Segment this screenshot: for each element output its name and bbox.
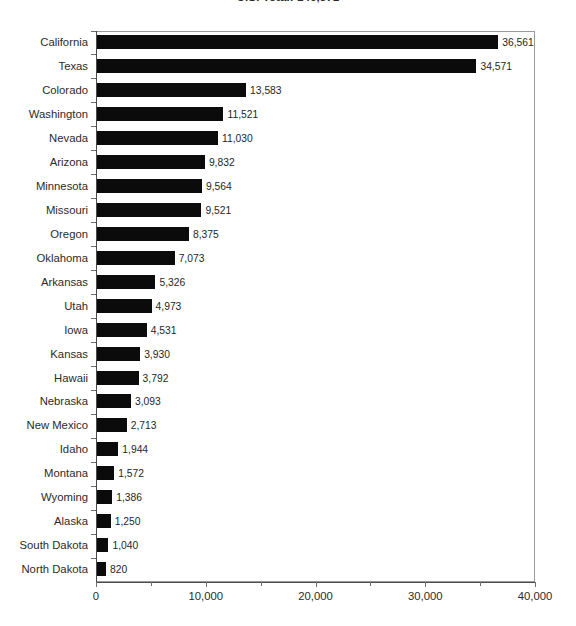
y-axis-tick bbox=[91, 78, 96, 79]
bar bbox=[97, 107, 223, 121]
y-axis-tick bbox=[91, 510, 96, 511]
bar bbox=[97, 514, 111, 528]
bar-row: Utah4,973 bbox=[0, 295, 576, 317]
y-axis-tick bbox=[91, 390, 96, 391]
bar-row: North Dakota820 bbox=[0, 558, 576, 580]
bar bbox=[97, 155, 205, 169]
y-axis-tick bbox=[91, 438, 96, 439]
bar bbox=[97, 466, 114, 480]
bar bbox=[97, 59, 476, 73]
bar-value-label: 8,375 bbox=[189, 228, 219, 239]
bar-row: Missouri9,521 bbox=[0, 199, 576, 221]
category-label: Nebraska bbox=[0, 395, 88, 407]
x-axis-tick bbox=[206, 582, 207, 587]
y-axis-tick bbox=[91, 414, 96, 415]
bar-value-label: 9,521 bbox=[201, 204, 231, 215]
bar bbox=[97, 323, 147, 337]
bar bbox=[97, 83, 246, 97]
x-axis-tick-label: 10,000 bbox=[188, 590, 223, 602]
bar bbox=[97, 347, 140, 361]
y-axis-tick bbox=[91, 102, 96, 103]
y-axis-tick bbox=[91, 462, 96, 463]
chart-title: U.S. Total: 146,371 bbox=[0, 0, 576, 3]
x-axis-tick-label: 40,000 bbox=[518, 590, 553, 602]
bar bbox=[97, 562, 106, 576]
bar-row: Nevada11,030 bbox=[0, 127, 576, 149]
y-axis-tick bbox=[91, 294, 96, 295]
bar-value-label: 9,564 bbox=[202, 180, 232, 191]
bar-row: Arizona9,832 bbox=[0, 151, 576, 173]
bar-row: Arkansas5,326 bbox=[0, 271, 576, 293]
bar-row: New Mexico2,713 bbox=[0, 414, 576, 436]
bar-value-label: 1,572 bbox=[114, 468, 144, 479]
x-axis-tick bbox=[425, 582, 426, 587]
bar bbox=[97, 299, 152, 313]
category-label: Wyoming bbox=[0, 491, 88, 503]
category-label: Minnesota bbox=[0, 180, 88, 192]
bar-row: South Dakota1,040 bbox=[0, 534, 576, 556]
bar-value-label: 1,944 bbox=[118, 444, 148, 455]
category-label: Missouri bbox=[0, 204, 88, 216]
y-axis-tick bbox=[91, 534, 96, 535]
bar bbox=[97, 251, 175, 265]
y-axis-tick bbox=[91, 558, 96, 559]
y-axis-tick bbox=[91, 366, 96, 367]
bar-value-label: 2,713 bbox=[127, 420, 157, 431]
bar-value-label: 5,326 bbox=[155, 276, 185, 287]
bar bbox=[97, 203, 201, 217]
y-axis-tick bbox=[91, 486, 96, 487]
bar-value-label: 9,832 bbox=[205, 156, 235, 167]
bar bbox=[97, 275, 155, 289]
bar-row: Hawaii3,792 bbox=[0, 366, 576, 388]
bar-value-label: 1,040 bbox=[108, 540, 138, 551]
x-axis-minor-tick bbox=[261, 582, 262, 586]
bar-value-label: 36,561 bbox=[498, 37, 534, 48]
category-label: North Dakota bbox=[0, 563, 88, 575]
bar-row: Montana1,572 bbox=[0, 462, 576, 484]
y-axis-tick bbox=[91, 54, 96, 55]
y-axis-tick bbox=[91, 246, 96, 247]
bar-value-label: 13,583 bbox=[246, 85, 282, 96]
category-label: Arkansas bbox=[0, 276, 88, 288]
category-label: Texas bbox=[0, 60, 88, 72]
y-axis-tick bbox=[91, 342, 96, 343]
bar bbox=[97, 371, 139, 385]
category-label: Montana bbox=[0, 467, 88, 479]
bar bbox=[97, 179, 202, 193]
bar-row: Washington11,521 bbox=[0, 103, 576, 125]
bar bbox=[97, 418, 127, 432]
y-axis-tick bbox=[91, 150, 96, 151]
category-label: Alaska bbox=[0, 515, 88, 527]
category-label: Hawaii bbox=[0, 372, 88, 384]
bar-value-label: 3,093 bbox=[131, 396, 161, 407]
category-label: New Mexico bbox=[0, 419, 88, 431]
bar bbox=[97, 490, 112, 504]
bar-value-label: 11,030 bbox=[218, 132, 253, 143]
bar-value-label: 3,792 bbox=[139, 372, 169, 383]
bar-value-label: 11,521 bbox=[223, 109, 258, 120]
bar-value-label: 4,531 bbox=[147, 324, 177, 335]
category-label: Washington bbox=[0, 108, 88, 120]
category-label: Idaho bbox=[0, 443, 88, 455]
bar-row: Alaska1,250 bbox=[0, 510, 576, 532]
bar-value-label: 1,386 bbox=[112, 492, 142, 503]
y-axis-tick bbox=[91, 222, 96, 223]
y-axis-tick bbox=[91, 174, 96, 175]
bar bbox=[97, 442, 118, 456]
bar bbox=[97, 131, 218, 145]
bar-row: Nebraska3,093 bbox=[0, 390, 576, 412]
bar-value-label: 1,250 bbox=[111, 516, 141, 527]
category-label: Colorado bbox=[0, 84, 88, 96]
bar-value-label: 34,571 bbox=[476, 61, 512, 72]
category-label: Nevada bbox=[0, 132, 88, 144]
category-label: Kansas bbox=[0, 348, 88, 360]
x-axis-tick-label: 20,000 bbox=[298, 590, 333, 602]
bar-row: California36,561 bbox=[0, 31, 576, 53]
x-axis-tick-label: 30,000 bbox=[408, 590, 443, 602]
bar bbox=[97, 227, 189, 241]
x-axis-minor-tick bbox=[151, 582, 152, 586]
category-label: Oregon bbox=[0, 228, 88, 240]
x-axis-tick bbox=[535, 582, 536, 587]
y-axis-tick bbox=[91, 31, 96, 32]
y-axis-tick bbox=[91, 198, 96, 199]
